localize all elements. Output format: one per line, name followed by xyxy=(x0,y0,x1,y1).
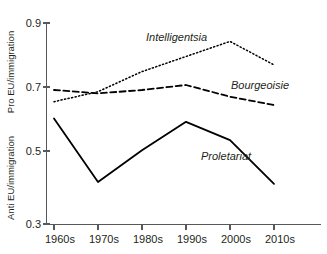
y-axis-title-top: Pro EU/immigration xyxy=(5,31,16,113)
x-tick-label-2: 1980s xyxy=(133,233,163,245)
y-tick-label-1: 0.7 xyxy=(26,81,41,93)
y-tick-label-2: 0.5 xyxy=(26,145,41,157)
x-tick-label-1: 1970s xyxy=(89,233,119,245)
y-tick-label-0: 0.9 xyxy=(26,17,41,29)
x-tick-label-3: 1990s xyxy=(177,233,207,245)
y-tick-label-3: 0.3 xyxy=(26,218,41,230)
series-label-bourgeoisie: Bourgeoisie xyxy=(231,79,289,91)
y-axis-title-bottom: Anti EU/immigration xyxy=(5,136,16,220)
x-tick-label-5: 2010s xyxy=(265,233,295,245)
series-label-intelligentsia: Intelligentsia xyxy=(146,31,207,43)
x-tick-label-4: 2000s xyxy=(221,233,251,245)
x-tick-label-0: 1960s xyxy=(45,233,75,245)
series-label-proletariat: Proletariat xyxy=(201,150,252,162)
line-chart: 0.9 0.7 0.5 0.3 Pro EU/immigration Anti … xyxy=(0,0,327,254)
chart-container: 0.9 0.7 0.5 0.3 Pro EU/immigration Anti … xyxy=(0,0,327,254)
